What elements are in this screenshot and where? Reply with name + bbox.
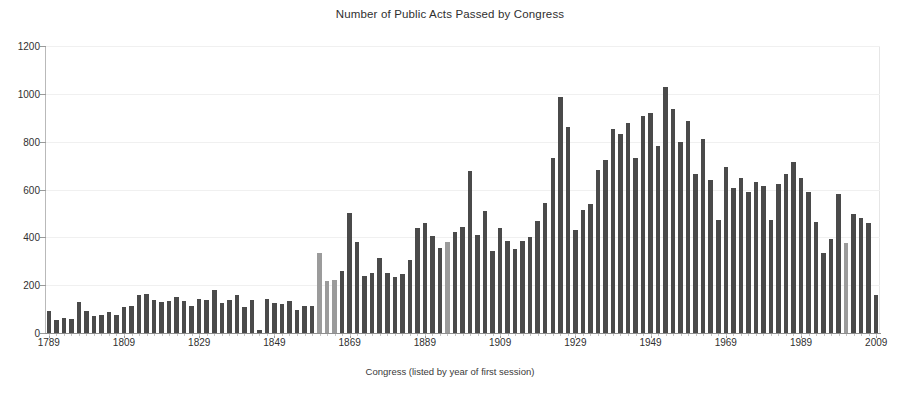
x-axis-minor-tick xyxy=(402,334,403,336)
x-axis-minor-tick xyxy=(605,334,606,336)
bar xyxy=(724,167,729,333)
bar xyxy=(754,182,759,333)
bar xyxy=(235,295,240,333)
x-axis-minor-tick xyxy=(132,334,133,336)
y-axis-tick-label: 1200 xyxy=(6,41,40,52)
x-axis-minor-tick xyxy=(726,334,727,336)
x-axis-minor-tick xyxy=(666,334,667,336)
bar xyxy=(287,301,292,333)
x-axis-minor-tick xyxy=(839,334,840,336)
x-axis-minor-tick xyxy=(282,334,283,336)
x-axis-minor-tick xyxy=(673,334,674,336)
bar xyxy=(551,158,556,333)
bar xyxy=(159,302,164,333)
bar xyxy=(866,223,871,333)
bar xyxy=(558,97,563,333)
x-axis-minor-tick xyxy=(470,334,471,336)
x-axis-tick-label: 1929 xyxy=(564,337,586,348)
bar xyxy=(566,127,571,333)
bar xyxy=(107,312,112,333)
x-axis-minor-tick xyxy=(560,334,561,336)
bar xyxy=(776,184,781,333)
bar xyxy=(69,319,74,333)
bar xyxy=(671,109,676,333)
x-axis-minor-tick xyxy=(365,334,366,336)
bar xyxy=(836,194,841,333)
x-axis-minor-tick xyxy=(553,334,554,336)
x-axis-minor-tick xyxy=(372,334,373,336)
x-axis-minor-tick xyxy=(711,334,712,336)
bar xyxy=(596,170,601,333)
x-axis-minor-tick xyxy=(846,334,847,336)
x-axis-minor-tick xyxy=(816,334,817,336)
x-axis-minor-tick xyxy=(56,334,57,336)
x-axis-minor-tick xyxy=(214,334,215,336)
x-axis-minor-tick xyxy=(327,334,328,336)
bar xyxy=(874,295,879,333)
x-axis-minor-tick xyxy=(207,334,208,336)
y-axis-labels: 020040060080010001200 xyxy=(0,0,40,395)
bar xyxy=(761,186,766,333)
bar xyxy=(99,315,104,333)
x-axis-title: Congress (listed by year of first sessio… xyxy=(0,366,900,377)
bar xyxy=(77,302,82,333)
x-axis-minor-tick xyxy=(289,334,290,336)
x-axis-minor-tick xyxy=(688,334,689,336)
x-axis-minor-tick xyxy=(297,334,298,336)
x-axis-minor-tick xyxy=(861,334,862,336)
bar xyxy=(415,228,420,333)
bar xyxy=(618,134,623,333)
bar xyxy=(197,299,202,333)
x-axis-minor-tick xyxy=(643,334,644,336)
bar xyxy=(716,220,721,333)
bar xyxy=(362,276,367,333)
x-axis-minor-tick xyxy=(147,334,148,336)
x-axis-minor-tick xyxy=(523,334,524,336)
bar xyxy=(393,277,398,333)
x-axis-minor-tick xyxy=(478,334,479,336)
bar xyxy=(475,235,480,333)
bar xyxy=(355,242,360,333)
bar xyxy=(814,222,819,333)
bar xyxy=(182,301,187,333)
x-axis-minor-tick xyxy=(598,334,599,336)
x-axis-line xyxy=(45,333,881,334)
y-axis-tick-label: 600 xyxy=(6,184,40,195)
bar xyxy=(739,178,744,333)
bar xyxy=(265,299,270,333)
bar xyxy=(746,192,751,333)
bar xyxy=(693,174,698,333)
x-axis-tick-label: 1949 xyxy=(639,337,661,348)
bar xyxy=(641,116,646,333)
x-axis-minor-tick xyxy=(154,334,155,336)
bar xyxy=(626,123,631,333)
bar xyxy=(573,230,578,333)
x-axis-minor-tick xyxy=(575,334,576,336)
x-axis-minor-tick xyxy=(192,334,193,336)
x-axis-minor-tick xyxy=(681,334,682,336)
x-axis-minor-tick xyxy=(447,334,448,336)
x-axis-minor-tick xyxy=(410,334,411,336)
bar xyxy=(84,311,89,333)
x-axis-minor-tick xyxy=(508,334,509,336)
bar xyxy=(468,171,473,333)
x-axis-minor-tick xyxy=(590,334,591,336)
y-axis-tick-label: 400 xyxy=(6,232,40,243)
x-axis-minor-tick xyxy=(771,334,772,336)
bar xyxy=(701,139,706,333)
x-axis-minor-tick xyxy=(259,334,260,336)
bar xyxy=(377,258,382,333)
x-axis-minor-tick xyxy=(237,334,238,336)
x-axis-minor-tick xyxy=(380,334,381,336)
bar xyxy=(483,211,488,333)
bar xyxy=(152,300,157,333)
bar xyxy=(332,280,337,333)
x-axis-minor-tick xyxy=(515,334,516,336)
bar xyxy=(144,294,149,333)
y-axis-tick-label: 200 xyxy=(6,280,40,291)
bar xyxy=(603,160,608,333)
x-axis-minor-tick xyxy=(651,334,652,336)
bar xyxy=(498,228,503,333)
bar xyxy=(370,273,375,333)
bar xyxy=(114,315,119,333)
